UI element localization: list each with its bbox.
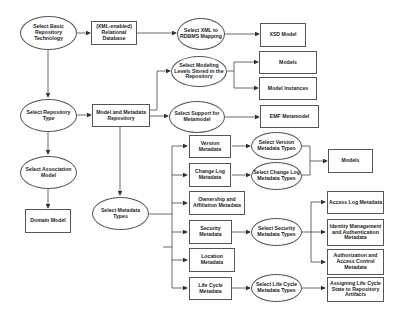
model-metadata-repository-node: Model and Metadata Repository [92, 104, 150, 127]
domain-model-node: Domain Model [25, 209, 71, 233]
select-security-types-node: Select Security Metadata Types [251, 218, 302, 246]
node-label: Select XML to RDBMS Mapping [178, 28, 224, 40]
select-support-metamodel-node: Select Support for Metamodel [169, 101, 225, 133]
node-label: Model Instances [268, 86, 308, 92]
node-label: Model and Metadata Repository [93, 110, 149, 122]
select-association-model-node: Select Association Model [20, 156, 77, 189]
select-repository-type-node: Select Repository Type [20, 99, 77, 132]
node-label: Domain Model [30, 218, 65, 224]
node-label: EMF Metamodel [270, 114, 310, 120]
location-metadata-node: Location Metadata [189, 248, 235, 272]
node-label: Ownership and Affiliation Metadata [190, 197, 244, 209]
node-label: Models [279, 60, 297, 66]
emf-metamodel-node: EMF Metamodel [260, 105, 319, 128]
node-label: Select Modeling Levels Stored in the Rep… [172, 63, 226, 81]
select-xml-rdbms-mapping-node: Select XML to RDBMS Mapping [177, 18, 225, 50]
node-label: Location Metadata [190, 254, 234, 266]
node-label: Select Repository Type [21, 110, 76, 122]
node-label: Security Metadata [190, 226, 231, 238]
select-life-cycle-types-node: Select Life Cycle Metadata Types [251, 274, 302, 302]
node-label: Version Metadata [190, 141, 230, 153]
change-log-metadata-node: Change Log Metadata [189, 163, 231, 187]
select-modeling-levels-node: Select Modeling Levels Stored in the Rep… [171, 56, 227, 87]
life-cycle-metadata-node: Life Cycle Metadata [189, 277, 232, 300]
node-label: Assigning Life Cycle State to Repository… [328, 281, 383, 299]
node-label: Change Log Metadata [190, 169, 230, 181]
assigning-life-cycle-node: Assigning Life Cycle State to Repository… [327, 277, 384, 302]
node-label: Select Basic Repository Technology [21, 24, 76, 42]
xsd-model-node: XSD Model [260, 23, 306, 47]
models-node-right: Models [328, 149, 373, 173]
node-label: Select Version Metadata Types [252, 140, 301, 152]
node-label: Select Change Log Metadata Types [252, 170, 301, 182]
node-label: Identity Management and Authentication M… [328, 224, 383, 242]
models-node-top: Models [259, 51, 317, 74]
authorization-metadata-node: Authorization and Access Control Metadat… [327, 249, 384, 275]
select-metadata-types-node: Select Metadata Types [92, 197, 149, 230]
node-label: Select Association Model [21, 167, 76, 179]
relational-database-node: (XML-enabled) Relational Database [91, 21, 137, 45]
access-log-metadata-node: Access Log Metadata [327, 191, 384, 214]
node-label: Select Security Metadata Types [252, 226, 301, 238]
select-basic-repository-technology-node: Select Basic Repository Technology [20, 16, 77, 50]
ownership-affiliation-metadata-node: Ownership and Affiliation Metadata [189, 191, 245, 215]
select-change-log-types-node: Select Change Log Metadata Types [251, 162, 302, 190]
node-label: Access Log Metadata [329, 200, 382, 206]
node-label: Select Metadata Types [93, 208, 148, 220]
node-label: XSD Model [269, 32, 296, 38]
version-metadata-node: Version Metadata [189, 135, 231, 158]
repository-decision-diagram: Select Basic Repository Technology (XML-… [0, 0, 403, 316]
node-label: Select Support for Metamodel [170, 111, 224, 123]
security-metadata-node: Security Metadata [189, 220, 232, 244]
node-label: (XML-enabled) Relational Database [92, 24, 136, 42]
select-version-types-node: Select Version Metadata Types [251, 132, 302, 160]
identity-management-metadata-node: Identity Management and Authentication M… [327, 219, 384, 246]
model-instances-node: Model Instances [259, 77, 317, 100]
node-label: Authorization and Access Control Metadat… [328, 253, 383, 271]
node-label: Select Life Cycle Metadata Types [252, 282, 301, 294]
node-label: Models [342, 158, 360, 164]
node-label: Life Cycle Metadata [190, 283, 231, 295]
